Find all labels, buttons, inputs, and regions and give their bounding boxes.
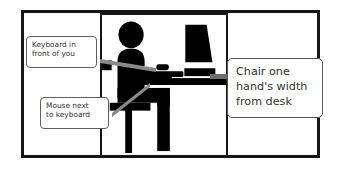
callout-chair: Chair one hand's width from desk: [227, 58, 323, 118]
leader-line-mouse: [112, 83, 150, 117]
callout-keyboard-line-1: Keyboard in: [32, 40, 91, 49]
callout-mouse: Mouse next to keyboard: [40, 97, 109, 129]
callout-mouse-line-2: to keyboard: [46, 110, 103, 119]
leader-line-keyboard: [100, 59, 156, 72]
callout-mouse-line-1: Mouse next: [46, 101, 103, 110]
callout-chair-line-3: from desk: [236, 94, 314, 109]
callout-chair-line-1: Chair one: [236, 64, 314, 79]
ergonomics-diagram: Keyboard in front of you Mouse next to k…: [0, 0, 338, 172]
callout-keyboard-line-2: front of you: [32, 49, 91, 58]
callout-chair-line-2: hand's width: [236, 79, 314, 94]
callout-keyboard: Keyboard in front of you: [26, 36, 97, 68]
